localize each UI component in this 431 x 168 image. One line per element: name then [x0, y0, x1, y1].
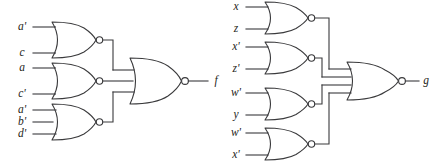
f-gate-3[interactable] — [52, 104, 103, 140]
g-gate-2-body — [265, 42, 308, 74]
g-input-label-4: z' — [232, 62, 240, 74]
f-gate-2-inversion-bubble — [96, 78, 102, 84]
f-input-label-1: a' — [18, 20, 27, 32]
g-gate-1[interactable] — [265, 2, 315, 34]
circuit-diagram-svg: a' c a c' a' b' d' — [0, 0, 431, 168]
f-gate-2-body — [52, 63, 96, 99]
f-output-label: f — [214, 74, 219, 87]
circuit-f: a' c a c' a' b' d' — [18, 20, 220, 140]
g-gate-3-body — [265, 88, 308, 120]
g-output-gate[interactable] — [347, 62, 405, 100]
f-output-inversion-bubble — [182, 78, 189, 85]
g-gate-4-body — [265, 128, 308, 160]
f-gate-1-output-wire — [103, 40, 113, 70]
f-input-label-3: a — [19, 61, 25, 73]
g-gate-4-inversion-bubble — [308, 141, 314, 147]
g-gate-4[interactable] — [265, 128, 315, 160]
g-gate-3-output-wire — [315, 85, 322, 104]
f-output-gate-body — [130, 58, 182, 104]
g-input-label-7: w' — [231, 126, 242, 138]
g-input-label-2: z — [233, 22, 239, 34]
f-gate-3-body — [52, 104, 96, 140]
g-input-label-8: x' — [231, 148, 240, 160]
g-gate-2-output-wire — [315, 58, 322, 77]
f-gate-2[interactable] — [52, 63, 103, 99]
f-gate-3-inversion-bubble — [96, 119, 102, 125]
f-gate-1[interactable] — [52, 22, 103, 58]
g-input-label-1: x — [232, 0, 239, 12]
g-gate-2-inversion-bubble — [308, 55, 314, 61]
g-input-label-3: x' — [231, 40, 240, 52]
f-gate-1-inversion-bubble — [96, 37, 102, 43]
f-input-label-6: b' — [18, 115, 27, 127]
g-input-label-5: w' — [231, 86, 242, 98]
f-input-label-5: a' — [18, 103, 27, 115]
circuit-diagram-canvas: a' c a c' a' b' d' — [0, 0, 431, 168]
g-output-inversion-bubble — [399, 78, 406, 85]
g-gate-3[interactable] — [265, 88, 315, 120]
f-input-label-2: c — [19, 46, 24, 58]
f-gate-3-output-wire — [103, 92, 113, 122]
g-gate-1-inversion-bubble — [308, 15, 314, 21]
g-gate-1-body — [265, 2, 308, 34]
g-output-label: g — [423, 74, 429, 87]
g-gate-2[interactable] — [265, 42, 315, 74]
g-gate-3-inversion-bubble — [308, 101, 314, 107]
circuit-g: x z x' z' w' y — [231, 0, 429, 160]
f-output-gate[interactable] — [130, 58, 188, 104]
g-input-label-6: y — [232, 108, 239, 121]
g-output-gate-body — [347, 62, 399, 100]
f-input-label-7: d' — [18, 127, 27, 139]
f-input-label-4: c' — [18, 87, 26, 99]
f-gate-1-body — [52, 22, 96, 58]
